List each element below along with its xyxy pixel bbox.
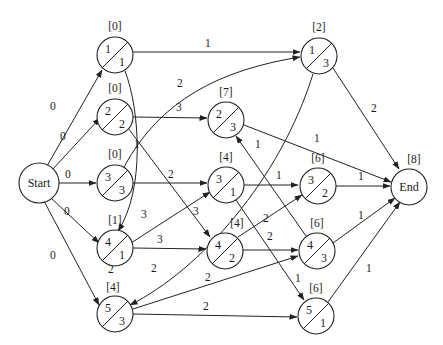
node-b-earliest: [0] bbox=[108, 82, 121, 94]
node-i-top: 1 bbox=[309, 43, 315, 57]
edge-label-l-end: 1 bbox=[366, 262, 372, 274]
node-j-earliest: [6] bbox=[311, 152, 324, 164]
edge-d-h bbox=[133, 248, 206, 249]
edge-label-e-l: 2 bbox=[203, 300, 209, 312]
node-end-earliest: [8] bbox=[407, 153, 420, 165]
edge-b-f bbox=[133, 117, 207, 118]
node-a-earliest: [0] bbox=[108, 20, 121, 32]
node-f: 2 3 [7] bbox=[208, 86, 244, 138]
node-h: 4 2 [4] bbox=[207, 217, 244, 269]
node-end: End [8] bbox=[391, 153, 427, 205]
edge-i-end bbox=[333, 68, 399, 169]
node-end-label: End bbox=[399, 180, 418, 194]
node-l-earliest: [6] bbox=[309, 282, 322, 294]
edge-label-d-g: 3 bbox=[141, 208, 147, 220]
edge-label-c-g: 2 bbox=[168, 168, 174, 180]
node-b: 2 2 [0] bbox=[97, 82, 133, 135]
edge-label-d-h: 3 bbox=[157, 233, 163, 245]
node-c-earliest: [0] bbox=[108, 148, 121, 160]
edge-label-j-end: 1 bbox=[358, 170, 364, 182]
node-e: 5 3 [4] bbox=[97, 281, 133, 332]
edge-label-start-b: 0 bbox=[60, 130, 66, 142]
edge-label-start-c: 0 bbox=[65, 168, 71, 180]
node-d: 4 1 [1] bbox=[97, 214, 133, 266]
node-l-bottom: 1 bbox=[320, 316, 326, 330]
node-i-earliest: [2] bbox=[312, 21, 325, 33]
node-i: 1 3 [2] bbox=[301, 21, 337, 74]
node-start-label: Start bbox=[28, 176, 51, 190]
node-f-bottom: 3 bbox=[230, 120, 236, 134]
node-g-bottom: 1 bbox=[230, 185, 236, 199]
edge-label-i-e: 2 bbox=[151, 262, 157, 274]
edge-k-f bbox=[236, 136, 306, 236]
node-h-earliest: [4] bbox=[230, 217, 243, 229]
node-a-top: 1 bbox=[105, 42, 111, 56]
edge-start-a bbox=[47, 70, 102, 166]
node-start: Start bbox=[19, 163, 59, 203]
node-l-top: 5 bbox=[306, 303, 312, 317]
node-f-top: 2 bbox=[216, 107, 222, 121]
node-g: 3 1 [4] bbox=[208, 151, 244, 203]
edge-label-g-l: 1 bbox=[295, 272, 301, 284]
node-h-top: 4 bbox=[215, 238, 221, 252]
node-k-top: 4 bbox=[307, 238, 313, 252]
node-c-bottom: 3 bbox=[119, 183, 125, 197]
node-e-earliest: [4] bbox=[106, 281, 119, 293]
node-c-top: 3 bbox=[105, 170, 111, 184]
node-b-bottom: 2 bbox=[119, 117, 125, 131]
edge-label-i-end: 2 bbox=[371, 102, 377, 114]
edge-start-d bbox=[51, 198, 99, 243]
edge-label-e-k: 2 bbox=[205, 271, 211, 283]
edge-label-c-i: 2 bbox=[177, 77, 183, 89]
node-k: 4 3 [6] bbox=[299, 217, 335, 269]
node-f-earliest: [7] bbox=[219, 86, 232, 98]
node-c: 3 3 [0] bbox=[97, 148, 133, 201]
edge-label-k-f: 1 bbox=[255, 138, 261, 150]
edge-label-k-end: 1 bbox=[358, 209, 364, 221]
node-g-top: 3 bbox=[216, 172, 222, 186]
node-j-bottom: 2 bbox=[322, 186, 328, 200]
node-l: 5 1 [6] bbox=[298, 282, 334, 334]
node-k-earliest: [6] bbox=[310, 217, 323, 229]
edge-label-a-d: 1 bbox=[134, 138, 140, 150]
node-h-bottom: 2 bbox=[229, 251, 235, 265]
edge-label-start-d: 0 bbox=[64, 205, 70, 217]
edge-label-f-end: 1 bbox=[314, 132, 320, 144]
node-b-top: 2 bbox=[105, 104, 111, 118]
node-g-earliest: [4] bbox=[219, 151, 232, 163]
edge-label-start-a: 0 bbox=[50, 100, 56, 112]
node-i-bottom: 3 bbox=[323, 56, 329, 70]
node-e-bottom: 3 bbox=[119, 314, 125, 328]
node-k-bottom: 3 bbox=[321, 251, 327, 265]
node-e-top: 5 bbox=[105, 301, 111, 315]
edge-label-b-f: 3 bbox=[176, 101, 182, 113]
node-j-top: 3 bbox=[308, 173, 314, 187]
edge-label-a-i: 1 bbox=[205, 37, 211, 49]
node-j: 3 2 [6] bbox=[300, 152, 336, 204]
edge-label-h-k: 2 bbox=[267, 230, 273, 242]
edge-label-g-j: 1 bbox=[276, 169, 282, 181]
node-d-bottom: 1 bbox=[119, 248, 125, 262]
edge-l-end bbox=[328, 202, 400, 302]
network-diagram: 0 0 0 0 0 1 1 3 3 2 2 3 3 2 2 2 2 2 1 1 … bbox=[0, 0, 443, 345]
node-a-bottom: 1 bbox=[119, 55, 125, 69]
node-d-top: 4 bbox=[105, 235, 111, 249]
edge-label-start-e: 0 bbox=[50, 249, 56, 261]
edge-k-end bbox=[333, 198, 395, 243]
edge-label-h-j: 2 bbox=[263, 212, 269, 224]
edge-label-b-h: 3 bbox=[193, 205, 199, 217]
edge-e-l bbox=[133, 314, 297, 317]
node-d-earliest: [1] bbox=[108, 214, 121, 226]
node-a: 1 1 [0] bbox=[97, 20, 133, 73]
